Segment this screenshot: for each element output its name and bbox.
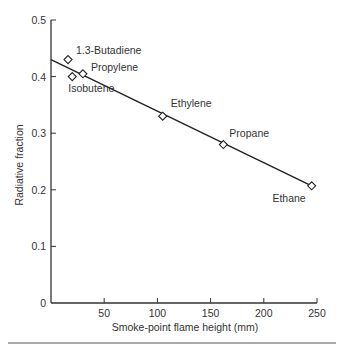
point-label: 1.3-Butadiene	[76, 44, 142, 56]
point-label: Ethylene	[171, 97, 212, 109]
x-tick-label: 100	[149, 307, 167, 319]
diamond-marker-icon	[68, 73, 76, 81]
fit-line	[51, 60, 312, 186]
x-tick-label: 250	[308, 307, 326, 319]
data-points: 1.3-ButadieneIsobutenePropyleneEthyleneP…	[64, 44, 316, 204]
diamond-marker-icon	[159, 112, 167, 120]
diamond-marker-icon	[308, 182, 316, 190]
y-tick-label: 0.2	[31, 184, 46, 196]
point-label: Ethane	[272, 192, 305, 204]
regression-line	[51, 60, 312, 186]
axes: 00.10.20.30.40.550100150200250	[31, 14, 326, 319]
y-axis-label: Radiative fraction	[13, 124, 25, 205]
point-label: Propane	[229, 127, 269, 139]
chart: 00.10.20.30.40.550100150200250 1.3-Butad…	[0, 0, 338, 350]
y-tick-label: 0.4	[31, 71, 46, 83]
point-label: Propylene	[91, 61, 138, 73]
y-tick-label: 0.3	[31, 127, 46, 139]
x-tick-label: 200	[255, 307, 273, 319]
x-tick-label: 50	[98, 307, 110, 319]
y-tick-label: 0.1	[31, 240, 46, 252]
y-tick-label: 0	[40, 297, 46, 309]
diamond-marker-icon	[64, 56, 72, 64]
x-axis-label: Smoke-point flame height (mm)	[112, 321, 258, 333]
point-label: Isobutene	[68, 82, 114, 94]
x-tick-label: 150	[202, 307, 220, 319]
y-tick-label: 0.5	[31, 14, 46, 26]
